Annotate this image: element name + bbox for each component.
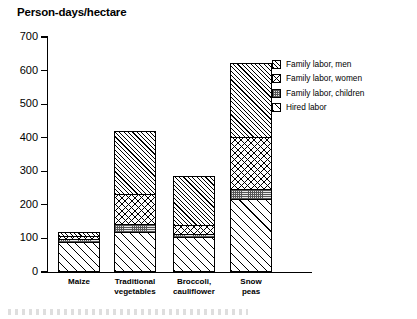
bar-segment [115, 233, 155, 271]
bar-traditional-vegetables[interactable] [114, 131, 156, 272]
legend-item-label: Hired labor [286, 103, 327, 112]
bar-snow-peas[interactable] [230, 63, 272, 272]
y-axis-tick-label: 400 [4, 132, 38, 143]
legend-item-label: Family labor, women [286, 74, 362, 83]
x-axis-label: Traditionalvegetables [102, 277, 168, 297]
bar-broccoli-cauliflower[interactable] [173, 176, 215, 272]
legend-swatch-icon [272, 89, 281, 98]
bar-maize[interactable] [58, 232, 100, 272]
legend-swatch-icon [272, 103, 281, 112]
legend-item[interactable]: Family labor, women [272, 72, 364, 87]
bar-segment [174, 238, 214, 271]
x-axis-label: Snowpeas [218, 277, 284, 297]
chart-container: Person-days/hectare 01002003004005006007… [0, 0, 417, 319]
bar-segment [231, 200, 271, 271]
y-axis-tick-label: 100 [4, 232, 38, 243]
legend-item[interactable]: Hired labor [272, 101, 364, 116]
caption-remnant [8, 309, 248, 315]
y-axis-tick-label: 200 [4, 199, 38, 210]
legend-swatch-icon [272, 60, 281, 69]
bar-segment [59, 243, 99, 271]
bar-segment [231, 190, 271, 200]
legend-item-label: Family labor, men [286, 60, 351, 69]
bar-segment [115, 132, 155, 195]
bar-segment [174, 177, 214, 226]
bar-segment [115, 225, 155, 233]
bar-segment [115, 195, 155, 225]
bar-segment [231, 138, 271, 190]
bar-segment [231, 64, 271, 138]
legend-item[interactable]: Family labor, children [272, 86, 364, 101]
y-axis-labels: 0100200300400500600700 [0, 0, 38, 290]
bar-segment [174, 226, 214, 235]
x-axis-line [47, 272, 312, 273]
y-axis-tick-label: 600 [4, 65, 38, 76]
legend-item-label: Family labor, children [286, 89, 364, 98]
y-axis-tick-label: 300 [4, 165, 38, 176]
y-axis-tick-label: 700 [4, 31, 38, 42]
chart-legend: Family labor, menFamily labor, womenFami… [272, 57, 364, 115]
y-axis-tick-label: 0 [4, 266, 38, 277]
legend-item[interactable]: Family labor, men [272, 57, 364, 72]
legend-swatch-icon [272, 74, 281, 83]
y-axis-tick-label: 500 [4, 98, 38, 109]
